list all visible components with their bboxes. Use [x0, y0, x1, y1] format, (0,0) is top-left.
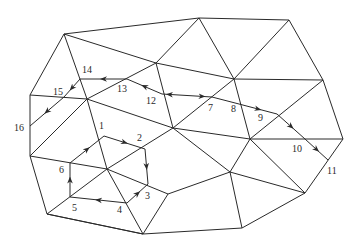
mesh-edge: [234, 79, 250, 139]
mesh-edge: [64, 34, 156, 63]
mesh-edge: [289, 20, 323, 80]
mesh-edge: [30, 156, 47, 214]
mesh-edge: [230, 139, 250, 172]
point-label-10: 10: [292, 144, 302, 154]
path-segment-9-10: [277, 114, 305, 139]
point-label-12: 12: [146, 96, 156, 106]
point-label-1: 1: [99, 121, 104, 131]
point-label-6: 6: [59, 165, 64, 175]
mesh-edge: [107, 169, 168, 194]
mesh-edge: [234, 79, 323, 80]
point-label-8: 8: [231, 104, 236, 114]
point-label-5: 5: [72, 203, 77, 213]
mesh-edge: [156, 63, 234, 79]
mesh-edge: [87, 99, 107, 169]
mesh-edge: [47, 169, 107, 214]
mesh-edge: [199, 18, 234, 79]
mesh-edge: [173, 79, 234, 128]
mesh-edge: [156, 63, 173, 128]
point-label-11: 11: [327, 166, 337, 176]
point-label-2: 2: [137, 133, 142, 143]
traversal-path: [30, 79, 328, 203]
mesh-edge: [30, 99, 87, 156]
mesh-edge: [143, 228, 242, 234]
path-segment-12-7: [177, 95, 212, 97]
mesh-edge: [234, 20, 289, 79]
mesh-edge: [156, 18, 199, 63]
mesh-path-diagram: 12345678910111213141516: [0, 0, 357, 246]
path-segment-14-15: [64, 79, 80, 97]
mesh-edge: [242, 193, 305, 228]
point-label-9: 9: [258, 113, 263, 123]
point-label-15: 15: [53, 87, 63, 97]
point-label-3: 3: [145, 191, 150, 201]
path-segment-6-1: [70, 136, 104, 163]
path-segment-15-16: [30, 97, 64, 126]
mesh-edge: [199, 18, 289, 20]
point-label-7: 7: [208, 103, 213, 113]
mesh-edge: [323, 80, 343, 139]
mesh-edge: [168, 172, 230, 194]
mesh-edge: [64, 18, 199, 34]
triangular-mesh: [0, 0, 357, 246]
path-segment-2-3: [145, 149, 148, 184]
point-label-13: 13: [117, 84, 127, 94]
path-segment-10-11: [305, 139, 328, 160]
path-segment-4-5: [70, 197, 127, 203]
mesh-edge: [230, 172, 242, 228]
point-label-16: 16: [14, 123, 24, 133]
point-label-14: 14: [82, 65, 92, 75]
path-segment-12-13: [127, 79, 162, 94]
mesh-edge: [30, 156, 107, 169]
mesh-edge: [305, 139, 343, 193]
mesh-edge: [47, 214, 143, 234]
point-label-4: 4: [117, 205, 122, 215]
